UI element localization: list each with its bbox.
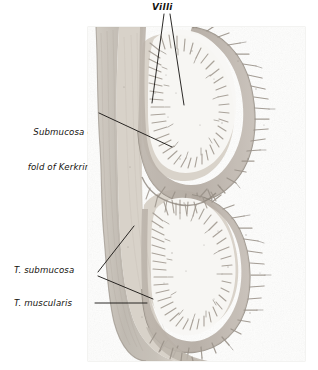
- label-submucosa-of-fold-of-kerkring: Submucosa of fold of Kerkring: [14, 104, 96, 196]
- intestinal-wall-section-illustration: [88, 27, 305, 361]
- anatomy-figure: Villi Submucosa of fold of Kerkring T. s…: [0, 0, 318, 370]
- label-line-2: fold of Kerkring: [14, 162, 96, 174]
- label-line-1: Submucosa of: [14, 127, 96, 139]
- histology-plate: [88, 27, 305, 361]
- label-t-submucosa: T. submucosa: [14, 265, 74, 277]
- label-t-muscularis: T. muscularis: [14, 298, 72, 310]
- label-villi: Villi: [152, 2, 173, 14]
